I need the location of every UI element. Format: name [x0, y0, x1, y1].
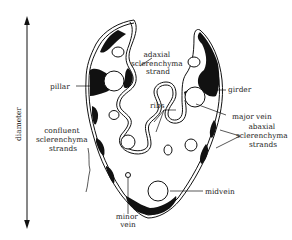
- minor-vein-circle: [126, 173, 131, 178]
- vein-top-left: [112, 47, 124, 57]
- label-adaxial-strand: adaxial sclerenchyma strand: [131, 50, 185, 76]
- major-vein-right: [185, 87, 205, 107]
- leaf-cross-section-diagram: diameter: [0, 0, 292, 240]
- label-major-vein: major vein: [232, 112, 272, 121]
- diameter-axis: diameter: [14, 16, 30, 229]
- major-vein-left: [104, 71, 124, 91]
- arrow-up-icon: [24, 16, 30, 25]
- label-girder: girder: [228, 85, 252, 94]
- label-midvein: midvein: [205, 187, 235, 196]
- diameter-label: diameter: [14, 107, 23, 141]
- label-confluent-strands: confluent sclerenchyma strands: [36, 126, 90, 153]
- label-abaxial-strands: abaxial sclerenchyma strands: [236, 122, 290, 149]
- label-ribs: ribs: [150, 101, 165, 110]
- label-pillar: pillar: [50, 82, 70, 91]
- label-minor-vein: minor vein: [116, 212, 140, 229]
- labels: adaxial sclerenchyma strand pillar girde…: [36, 50, 290, 229]
- midvein-circle: [148, 181, 168, 201]
- arrow-down-icon: [24, 220, 30, 229]
